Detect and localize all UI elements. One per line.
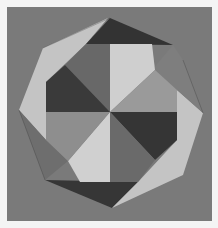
- geometric-octagon-photo: [0, 0, 218, 228]
